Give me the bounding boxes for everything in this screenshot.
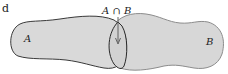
fragment-letter: d (2, 2, 9, 15)
set-a-label: A (23, 33, 31, 44)
intersection-label: A ∩ B (101, 5, 131, 16)
set-b-label: B (205, 36, 213, 47)
venn-diagram: d A B A ∩ B (0, 0, 228, 74)
